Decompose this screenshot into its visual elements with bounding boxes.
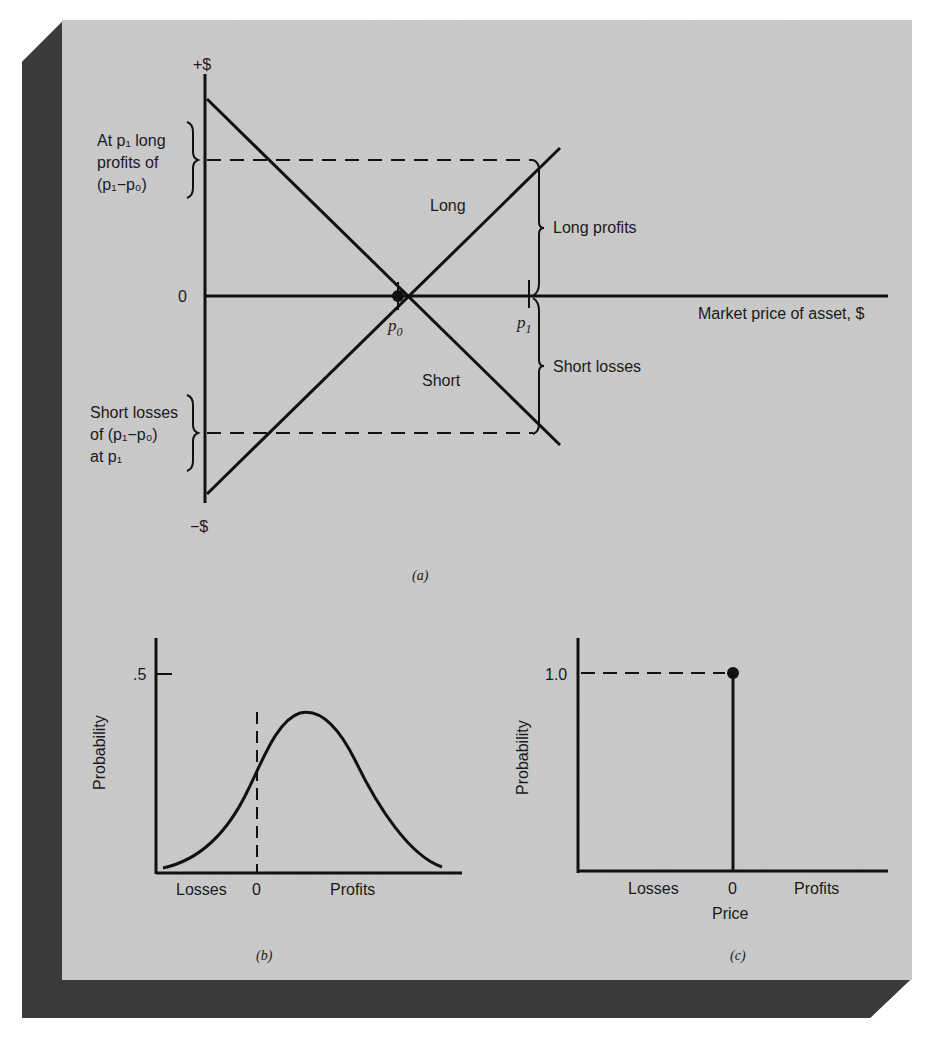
panel-c-caption: (c) [730, 948, 746, 964]
certain-outcome-point [727, 667, 739, 679]
x-right-label: Profits [794, 880, 839, 897]
short-losses-label: Short losses [553, 358, 641, 375]
panel-b-caption: (b) [256, 948, 273, 964]
x-zero-label: 0 [252, 881, 261, 898]
y-bottom-label: −$ [190, 518, 208, 535]
long-label: Long [430, 197, 466, 214]
short-label: Short [422, 372, 461, 389]
long-profits-label: Long profits [553, 219, 637, 236]
x-axis-title: Price [712, 905, 749, 922]
x-left-label: Losses [176, 881, 227, 898]
y-axis-label: Probability [514, 720, 531, 795]
y-tick-label: .5 [133, 666, 146, 683]
x-right-label: Profits [330, 881, 375, 898]
panel-a-caption: (a) [412, 568, 429, 584]
figure: +$ −$ 0 Long Short Long profits Short lo… [0, 0, 943, 1058]
y-top-label: +$ [193, 56, 211, 73]
y-zero-label: 0 [178, 288, 187, 305]
x-zero-label: 0 [728, 880, 737, 897]
y-axis-label: Probability [91, 715, 108, 790]
x-left-label: Losses [628, 880, 679, 897]
y-tick-label: 1.0 [545, 666, 567, 683]
p0-point [392, 290, 404, 302]
x-axis-label: Market price of asset, $ [698, 305, 864, 322]
